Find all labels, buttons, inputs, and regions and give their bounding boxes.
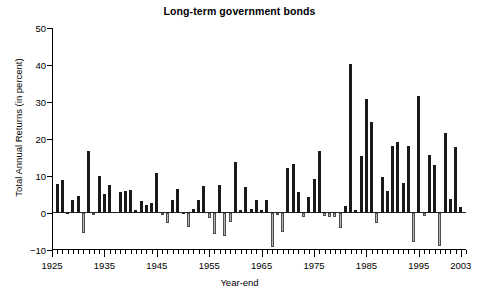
bar: [381, 177, 384, 213]
bar: [370, 122, 373, 213]
bar: [354, 210, 357, 213]
x-tick-minor: [146, 250, 147, 254]
bar: [386, 191, 389, 213]
bar: [260, 210, 263, 213]
x-tick-minor: [319, 250, 320, 254]
x-tick-minor: [466, 250, 467, 254]
x-tick-minor: [351, 250, 352, 254]
x-tick-label: 1925: [41, 260, 62, 271]
x-tick-minor: [178, 250, 179, 254]
chart-page: Long-term government bonds Total Annual …: [0, 0, 479, 297]
x-tick-minor: [330, 250, 331, 254]
plot-area: 50403020100−10 1925193519451955196519751…: [52, 28, 466, 250]
x-tick-minor: [225, 250, 226, 254]
bar: [365, 99, 368, 213]
x-tick-minor: [382, 250, 383, 254]
x-tick-minor: [235, 250, 236, 254]
bar: [223, 213, 226, 236]
y-tick: [47, 65, 52, 66]
x-axis-label: Year-end: [0, 277, 479, 288]
x-tick-minor: [83, 250, 84, 254]
x-tick-minor: [456, 250, 457, 254]
bar: [87, 151, 90, 213]
x-tick-minor: [340, 250, 341, 254]
x-tick-minor: [403, 250, 404, 254]
bar: [323, 213, 326, 216]
x-tick-minor: [325, 250, 326, 254]
x-tick-label: 1955: [199, 260, 220, 271]
bar: [276, 213, 279, 215]
x-tick-minor: [429, 250, 430, 254]
x-tick-minor: [230, 250, 231, 254]
y-tick: [47, 176, 52, 177]
y-tick: [47, 139, 52, 140]
x-tick-minor: [440, 250, 441, 254]
bar: [265, 200, 268, 213]
bar: [417, 96, 420, 213]
bar: [171, 200, 174, 213]
x-tick-minor: [68, 250, 69, 254]
bar: [454, 147, 457, 213]
x-tick-minor: [424, 250, 425, 254]
x-tick-minor: [241, 250, 242, 254]
x-tick-label: 1995: [408, 260, 429, 271]
bar: [129, 190, 132, 213]
bar: [391, 146, 394, 213]
x-tick-minor: [99, 250, 100, 254]
bar: [449, 199, 452, 213]
bar: [140, 201, 143, 213]
bar: [297, 192, 300, 213]
x-tick-minor: [267, 250, 268, 254]
x-tick-minor: [345, 250, 346, 254]
bar: [229, 213, 232, 222]
x-tick-minor: [393, 250, 394, 254]
x-tick-minor: [377, 250, 378, 254]
x-tick-minor: [293, 250, 294, 254]
x-tick-label: 1965: [251, 260, 272, 271]
bar: [396, 142, 399, 213]
bar: [328, 213, 331, 217]
x-tick-minor: [131, 250, 132, 254]
x-tick-minor: [115, 250, 116, 254]
bar: [66, 213, 69, 214]
bar: [218, 185, 221, 213]
bar: [344, 206, 347, 213]
bar: [428, 155, 431, 213]
x-tick-minor: [125, 250, 126, 254]
x-tick-minor: [152, 250, 153, 254]
x-tick-minor: [372, 250, 373, 254]
bar: [412, 213, 415, 242]
x-tick-minor: [204, 250, 205, 254]
x-tick-label: 2003: [450, 260, 471, 271]
x-tick-minor: [361, 250, 362, 254]
y-axis-line: [52, 28, 53, 250]
x-tick-minor: [356, 250, 357, 254]
x-tick-label: 1975: [303, 260, 324, 271]
x-tick-minor: [173, 250, 174, 254]
x-tick-minor: [408, 250, 409, 254]
x-tick-minor: [199, 250, 200, 254]
y-tick-label: 0: [41, 208, 46, 219]
x-tick-minor: [94, 250, 95, 254]
bar: [98, 176, 101, 213]
bar: [244, 187, 247, 213]
bar: [61, 180, 64, 213]
bar: [150, 203, 153, 213]
x-tick-minor: [445, 250, 446, 254]
x-tick-minor: [335, 250, 336, 254]
bar: [375, 213, 378, 223]
bar: [124, 191, 127, 213]
x-tick-major: [52, 250, 53, 257]
bar: [82, 213, 85, 233]
bar: [459, 207, 462, 213]
bar: [77, 196, 80, 213]
bar: [444, 133, 447, 213]
y-axis-label: Total Annual Returns (in percent): [13, 18, 24, 238]
bar: [307, 197, 310, 213]
bar: [161, 213, 164, 215]
x-tick-minor: [220, 250, 221, 254]
x-tick-minor: [283, 250, 284, 254]
x-tick-major: [262, 250, 263, 257]
bar: [176, 189, 179, 213]
x-tick-major: [157, 250, 158, 257]
